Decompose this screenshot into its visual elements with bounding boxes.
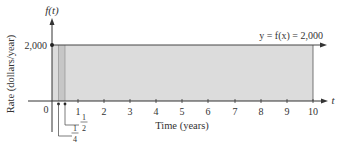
fraction-1-2-num: 1 — [82, 113, 86, 122]
x-tick-4: 4 — [154, 106, 159, 117]
fraction-1-2-den: 2 — [82, 124, 86, 133]
x-tick-5: 5 — [180, 106, 185, 117]
y-tick-2000: 2,000 — [25, 40, 48, 51]
chart: 0 1 2 3 4 5 6 7 8 9 10 1 4 1 2 2,000 f(t… — [0, 0, 338, 149]
fraction-1-4-den: 4 — [73, 135, 77, 144]
function-label: y = f(x) = 2,000 — [259, 30, 323, 42]
x-tick-10: 10 — [308, 106, 318, 117]
x-tick-3: 3 — [128, 106, 133, 117]
x-tick-6: 6 — [206, 106, 211, 117]
x-axis-symbol: t — [331, 94, 335, 106]
x-tick-7: 7 — [233, 106, 238, 117]
x-tick-0: 0 — [44, 104, 49, 115]
area-under-curve — [52, 45, 313, 101]
highlight-strip — [59, 45, 66, 101]
y-axis-symbol: f(t) — [45, 4, 59, 17]
fraction-1-4-num: 1 — [73, 124, 77, 133]
x-tick-8: 8 — [259, 106, 264, 117]
y-axis-title: Rate (dollars/year) — [5, 34, 17, 113]
x-axis-title: Time (years) — [155, 120, 209, 132]
x-tick-9: 9 — [285, 106, 290, 117]
x-tick-2: 2 — [102, 106, 107, 117]
x-tick-1: 1 — [76, 106, 81, 117]
